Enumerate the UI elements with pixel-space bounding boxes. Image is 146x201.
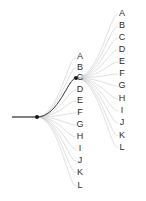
label-level1-B: B [77, 62, 83, 72]
node-dot-group [35, 76, 78, 119]
label-level2-L: L [119, 142, 124, 152]
edge-level1-A [37, 57, 76, 117]
level1-edge-group [37, 57, 76, 186]
level2-label-group: ABCDEFGHIJKL [118, 8, 125, 152]
edge-level1-highlighted-C [37, 78, 76, 117]
label-level1-L: L [77, 180, 82, 190]
label-level2-H: H [119, 93, 126, 103]
tree-diagram: ABCDEFGHIJKL ABCDEFGHIJKL [0, 0, 146, 201]
label-level1-A: A [77, 51, 83, 61]
label-level2-F: F [119, 68, 125, 78]
label-level2-E: E [119, 56, 125, 66]
edge-level1-B [37, 68, 76, 117]
label-level2-I: I [121, 105, 124, 115]
label-level1-G: G [76, 119, 83, 129]
highlight-edge-group [37, 78, 76, 117]
label-level1-I: I [79, 143, 82, 153]
label-level1-K: K [77, 167, 83, 177]
label-level1-F: F [77, 107, 83, 117]
label-level2-C: C [119, 32, 126, 42]
label-level2-B: B [119, 20, 125, 30]
label-level2-D: D [119, 44, 126, 54]
label-level1-C: C [77, 72, 84, 82]
label-level1-E: E [77, 95, 83, 105]
edge-level1-K [37, 117, 76, 173]
diagram-canvas: ABCDEFGHIJKL ABCDEFGHIJKL [0, 0, 146, 201]
label-level2-J: J [120, 117, 125, 127]
label-level1-H: H [77, 131, 84, 141]
label-level2-G: G [118, 80, 125, 90]
label-level1-J: J [78, 155, 83, 165]
level1-label-group: ABCDEFGHIJKL [76, 51, 83, 190]
edge-level1-I [37, 117, 76, 149]
label-level1-D: D [77, 84, 84, 94]
label-level2-K: K [119, 130, 125, 140]
label-level2-A: A [119, 8, 125, 18]
root-node-dot[interactable] [35, 115, 39, 119]
